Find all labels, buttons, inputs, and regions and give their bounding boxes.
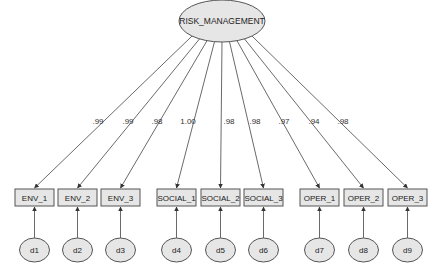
loading-path (252, 36, 408, 188)
error-label: d8 (359, 246, 368, 255)
latent-label: RISK_MANAGEMENT (179, 16, 265, 26)
indicator-label: ENV_2 (65, 194, 91, 203)
loading-value: .99 (122, 117, 134, 126)
error-label: d4 (172, 246, 181, 255)
indicator-label: SOCIAL_1 (157, 194, 196, 203)
loading-path (35, 36, 193, 188)
error-term-d4: d4 (162, 238, 192, 262)
indicator-social-3: SOCIAL_3 (244, 189, 283, 206)
indicator-label: SOCIAL_2 (201, 194, 240, 203)
loading-value: .98 (249, 117, 261, 126)
loading-path (177, 42, 215, 188)
indicator-label: OPER_3 (392, 194, 424, 203)
indicator-label: SOCIAL_3 (244, 194, 283, 203)
indicator-oper-2: OPER_2 (344, 189, 383, 206)
indicator-env-1: ENV_1 (15, 189, 54, 206)
error-term-d6: d6 (249, 238, 279, 262)
error-term-d2: d2 (63, 238, 93, 262)
error-term-d1: d1 (20, 238, 50, 262)
error-label: d3 (116, 246, 125, 255)
indicator-label: ENV_1 (22, 194, 48, 203)
indicator-env-2: ENV_2 (58, 189, 97, 206)
indicator-social-1: SOCIAL_1 (157, 189, 196, 206)
loading-path (78, 39, 200, 188)
error-term-d5: d5 (206, 238, 236, 262)
error-label: d1 (30, 246, 39, 255)
latent-variable-risk-management: RISK_MANAGEMENT (179, 0, 265, 42)
error-label: d7 (315, 246, 324, 255)
loading-value: .98 (337, 117, 349, 126)
error-label: d9 (403, 246, 412, 255)
indicator-label: OPER_1 (304, 194, 336, 203)
loading-path (245, 39, 364, 188)
indicator-label: ENV_3 (108, 194, 134, 203)
indicator-social-2: SOCIAL_2 (201, 189, 240, 206)
loading-value: .98 (151, 117, 163, 126)
indicator-label: OPER_2 (348, 194, 380, 203)
indicator-oper-3: OPER_3 (388, 189, 427, 206)
error-label: d5 (216, 246, 225, 255)
loading-path (230, 42, 264, 188)
loading-value: 1.00 (180, 117, 196, 126)
loading-path (221, 42, 223, 188)
loading-path (237, 41, 320, 188)
error-term-d7: d7 (305, 238, 335, 262)
error-term-d9: d9 (393, 238, 423, 262)
loading-value: .99 (92, 117, 104, 126)
error-label: d6 (259, 246, 268, 255)
sem-diagram: .99.99.981.00.98.98.97.94.98 RISK_MANAGE… (0, 0, 440, 273)
loading-value: .97 (278, 117, 290, 126)
loading-value: .94 (308, 117, 320, 126)
error-label: d2 (73, 246, 82, 255)
indicator-oper-1: OPER_1 (300, 189, 339, 206)
indicator-env-3: ENV_3 (101, 189, 140, 206)
error-term-d8: d8 (349, 238, 379, 262)
error-term-d3: d3 (106, 238, 136, 262)
loading-value: .98 (223, 117, 235, 126)
